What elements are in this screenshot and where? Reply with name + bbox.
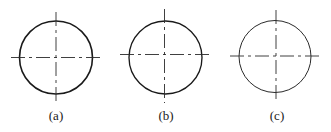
circle-c xyxy=(239,21,311,93)
panel-label-c: (c) xyxy=(270,108,284,124)
circle-b xyxy=(129,21,202,94)
panel-b xyxy=(120,9,211,103)
panel-c xyxy=(230,10,322,103)
panel-label-b: (b) xyxy=(158,108,173,124)
panel-a xyxy=(11,12,101,104)
panel-label-a: (a) xyxy=(49,108,63,124)
